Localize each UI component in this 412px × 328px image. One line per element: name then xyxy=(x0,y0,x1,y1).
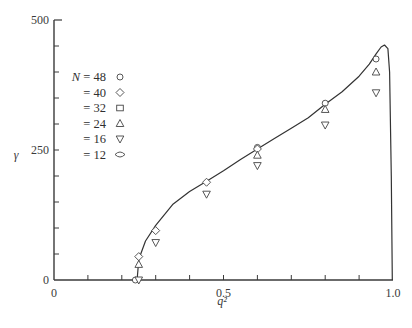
x-axis-title: q² xyxy=(217,294,227,308)
y-tick-label-0: 0 xyxy=(43,273,49,287)
legend-label-5: = 12 xyxy=(83,148,106,162)
legend-label-1: = 40 xyxy=(83,86,106,100)
y-axis-title: γ xyxy=(14,148,19,162)
data-point-triangle-down xyxy=(254,163,262,170)
y-tick-label-250: 250 xyxy=(31,143,49,157)
legend-marker-lens-icon xyxy=(115,152,125,157)
chart-plot-area: 025050000.51.0q²γN = 48= 40= 32= 24= 16=… xyxy=(0,0,412,328)
legend-label-2: = 32 xyxy=(83,101,106,115)
chart-figure: 025050000.51.0q²γN = 48= 40= 32= 24= 16=… xyxy=(0,0,412,328)
data-point-triangle-down xyxy=(372,90,380,97)
legend-label-4: = 16 xyxy=(83,132,106,146)
data-point-diamond xyxy=(135,253,143,261)
legend-marker-triangle-down-icon xyxy=(116,136,124,143)
data-point-circle xyxy=(373,56,379,62)
y-tick-label-500: 500 xyxy=(31,13,49,27)
data-point-triangle-down xyxy=(152,240,160,247)
legend-label-3: = 24 xyxy=(83,117,106,131)
legend-marker-circle-icon xyxy=(117,74,123,80)
legend-marker-diamond-icon xyxy=(116,89,124,97)
legend-marker-square-icon xyxy=(117,105,124,111)
legend-marker-triangle-up-icon xyxy=(116,120,124,127)
data-point-diamond xyxy=(152,227,160,235)
legend-label-0: N = 48 xyxy=(71,70,106,84)
data-point-triangle-up xyxy=(254,151,262,158)
data-point-triangle-down xyxy=(321,122,329,129)
theory-curve xyxy=(137,45,392,280)
data-point-triangle-up xyxy=(135,260,143,267)
data-point-triangle-down xyxy=(203,191,211,198)
data-point-triangle-up xyxy=(372,68,380,75)
x-tick-label-0: 0 xyxy=(51,286,57,300)
x-tick-label-1-0: 1.0 xyxy=(386,286,401,300)
